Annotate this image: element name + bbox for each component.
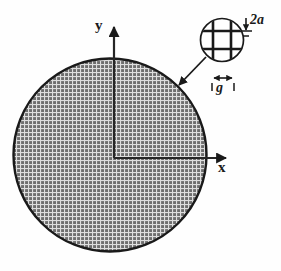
dimension-label-2a: 2a: [250, 13, 264, 27]
y-axis-label: y: [95, 18, 103, 33]
perforated-disk: [14, 59, 207, 252]
x-axis-label: x: [218, 160, 226, 175]
leader-arrow: [179, 57, 206, 85]
dimension-label-g: g: [216, 81, 223, 95]
disk-mesh-fill: [14, 59, 206, 251]
detail-circle-outline: [201, 19, 244, 62]
diagram-svg: [0, 0, 281, 271]
figure-canvas: y x 2a g: [0, 0, 281, 271]
mesh-detail-circle: [201, 19, 244, 62]
